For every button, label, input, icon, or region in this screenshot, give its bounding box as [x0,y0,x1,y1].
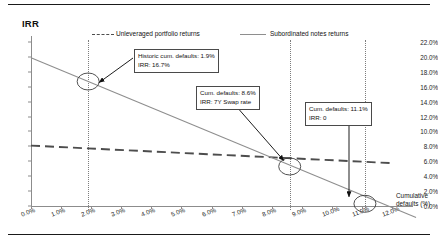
legend-label-unleveraged: Unleveraged portfolio returns [116,30,200,37]
series-line-subordinated [31,58,416,218]
x-axis-title-line1: Cumulative [396,192,438,200]
historic-defaults-callout: Historic cum. defaults: 1.9% IRR: 16.7% [134,49,219,73]
bottom-divider-rule [8,234,430,235]
swap-rate-callout-line1: Cum. defaults: 8.6% [200,89,256,98]
legend-label-subordinated: Subordinated notes returns [270,30,348,37]
swap-rate-callout: Cum. defaults: 8.6% IRR: 7Y Swap rate [196,86,260,110]
x-axis-title-line2: defaults (%) [396,200,438,208]
zero-irr-callout: Cum. defaults: 11.1% IRR: 0 [305,102,372,126]
zero-irr-callout-line2: IRR: 0 [309,114,368,123]
series-line-unleveraged [31,146,392,164]
historic-defaults-arrow [99,58,133,83]
legend-swatch-unleveraged [92,34,114,35]
x-axis-title: Cumulative defaults (%) [396,192,438,208]
marker-swap-rate-point [279,158,301,175]
swap-rate-callout-line2: IRR: 7Y Swap rate [200,98,256,107]
chart-legend: Unleveraged portfolio returns Subordinat… [92,30,392,42]
marker-zero-irr-point [354,195,376,212]
chart-page: IRR 0.0%2.0%4.0%6.0%8.0%10.0%12.0%14.0%1… [0,0,438,242]
legend-swatch-subordinated [240,34,266,35]
chart-container: IRR 0.0%2.0%4.0%6.0%8.0%10.0%12.0%14.0%1… [0,6,438,234]
historic-defaults-callout-line2: IRR: 16.7% [138,61,215,70]
plot-area: 0.0%2.0%4.0%6.0%8.0%10.0%12.0%14.0%16.0%… [0,6,438,234]
top-divider-rule [8,4,430,5]
zero-irr-callout-line1: Cum. defaults: 11.1% [309,105,368,114]
historic-defaults-callout-line1: Historic cum. defaults: 1.9% [138,52,215,61]
